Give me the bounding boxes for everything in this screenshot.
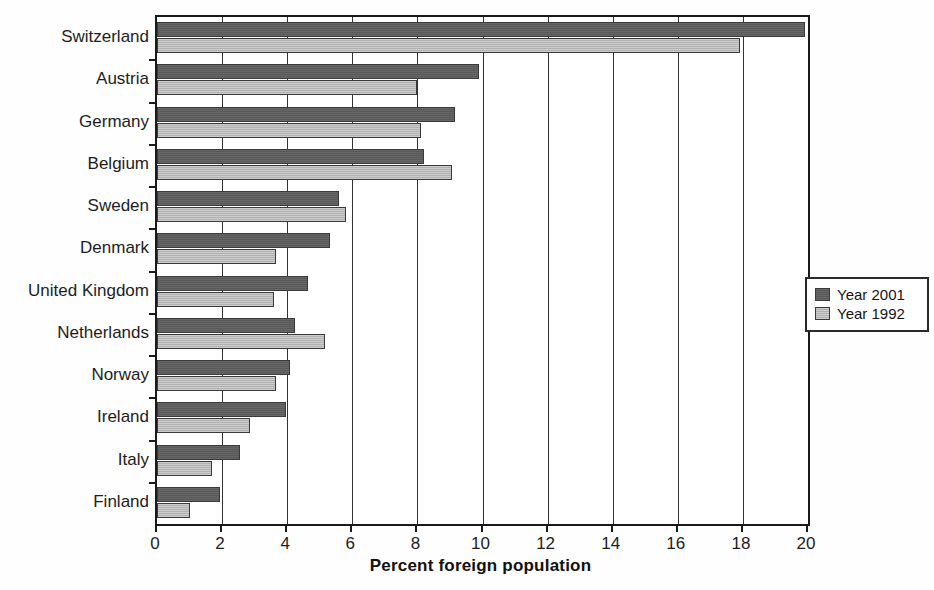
bar-group <box>157 355 808 397</box>
bar-group <box>157 228 808 270</box>
bar-year-2001 <box>157 360 290 375</box>
bar-group <box>157 17 808 59</box>
bar-year-1992 <box>157 418 250 433</box>
bar-group <box>157 397 808 439</box>
x-tick-mark <box>481 524 483 532</box>
category-tick <box>149 355 157 357</box>
bar-group <box>157 482 808 524</box>
category-tick <box>149 102 157 104</box>
bar-year-1992 <box>157 123 421 138</box>
category-label-austria: Austria <box>4 70 149 87</box>
category-tick <box>149 313 157 315</box>
bar-group <box>157 59 808 101</box>
chart-page: SwitzerlandAustriaGermanyBelgiumSwedenDe… <box>0 0 934 590</box>
bar-group <box>157 186 808 228</box>
x-tick-mark <box>350 524 352 532</box>
bar-year-2001 <box>157 318 295 333</box>
x-axis-title: Percent foreign population <box>155 556 806 576</box>
x-tick-label: 4 <box>265 534 305 554</box>
category-label-united-kingdom: United Kingdom <box>4 282 149 299</box>
x-tick-mark <box>611 524 613 532</box>
bar-year-1992 <box>157 207 346 222</box>
x-tick-label: 14 <box>591 534 631 554</box>
x-tick-mark <box>415 524 417 532</box>
bar-year-1992 <box>157 503 190 518</box>
legend-label-year-2001: Year 2001 <box>837 286 905 303</box>
x-tick-label: 2 <box>200 534 240 554</box>
x-tick-mark <box>155 524 157 532</box>
bar-year-1992 <box>157 38 740 53</box>
legend-swatch-year-1992 <box>815 307 830 320</box>
bar-year-2001 <box>157 22 805 37</box>
bar-year-1992 <box>157 80 417 95</box>
category-tick <box>149 228 157 230</box>
category-tick <box>149 482 157 484</box>
x-tick-label: 0 <box>135 534 175 554</box>
category-label-ireland: Ireland <box>4 408 149 425</box>
bar-year-2001 <box>157 191 339 206</box>
x-tick-label: 16 <box>656 534 696 554</box>
x-tick-mark <box>806 524 808 532</box>
bar-year-1992 <box>157 461 212 476</box>
bar-year-2001 <box>157 445 240 460</box>
category-tick <box>149 440 157 442</box>
legend-label-year-1992: Year 1992 <box>837 305 905 322</box>
x-tick-mark <box>220 524 222 532</box>
category-label-sweden: Sweden <box>4 197 149 214</box>
category-label-italy: Italy <box>4 451 149 468</box>
bar-year-1992 <box>157 334 325 349</box>
chart-legend: Year 2001 Year 1992 <box>805 277 929 332</box>
bar-group <box>157 102 808 144</box>
category-label-norway: Norway <box>4 366 149 383</box>
x-tick-mark <box>285 524 287 532</box>
bar-year-2001 <box>157 276 308 291</box>
bar-year-1992 <box>157 249 276 264</box>
bar-group <box>157 440 808 482</box>
bar-year-1992 <box>157 376 276 391</box>
legend-swatch-year-2001 <box>815 288 830 301</box>
x-tick-label: 10 <box>461 534 501 554</box>
bar-year-1992 <box>157 292 274 307</box>
category-label-belgium: Belgium <box>4 155 149 172</box>
category-tick <box>149 397 157 399</box>
bar-group <box>157 313 808 355</box>
category-label-germany: Germany <box>4 113 149 130</box>
category-label-finland: Finland <box>4 493 149 510</box>
bar-year-1992 <box>157 165 452 180</box>
bar-year-2001 <box>157 107 455 122</box>
category-tick <box>149 59 157 61</box>
bar-group <box>157 144 808 186</box>
category-tick <box>149 271 157 273</box>
x-tick-label: 18 <box>721 534 761 554</box>
category-tick <box>149 144 157 146</box>
x-tick-mark <box>676 524 678 532</box>
legend-item-year-1992[interactable]: Year 1992 <box>815 304 919 323</box>
bar-year-2001 <box>157 233 330 248</box>
x-tick-label: 6 <box>330 534 370 554</box>
category-tick <box>149 186 157 188</box>
legend-item-year-2001[interactable]: Year 2001 <box>815 285 919 304</box>
category-label-netherlands: Netherlands <box>4 324 149 341</box>
x-tick-label: 8 <box>395 534 435 554</box>
bar-group <box>157 271 808 313</box>
bar-year-2001 <box>157 64 479 79</box>
category-axis-labels: SwitzerlandAustriaGermanyBelgiumSwedenDe… <box>0 15 149 522</box>
x-tick-mark <box>741 524 743 532</box>
x-tick-label: 12 <box>526 534 566 554</box>
bar-year-2001 <box>157 402 286 417</box>
bar-year-2001 <box>157 487 220 502</box>
plot-area <box>155 15 810 526</box>
category-label-switzerland: Switzerland <box>4 28 149 45</box>
category-label-denmark: Denmark <box>4 239 149 256</box>
x-tick-mark <box>546 524 548 532</box>
x-tick-label: 20 <box>786 534 826 554</box>
bar-year-2001 <box>157 149 424 164</box>
